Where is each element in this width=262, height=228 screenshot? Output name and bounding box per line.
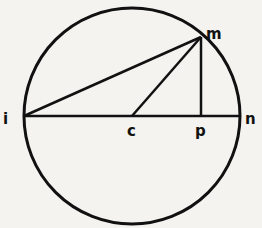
- label-c: c: [127, 122, 136, 140]
- label-i: i: [3, 110, 8, 128]
- label-p: p: [195, 122, 206, 140]
- circle-diagram: i m c p n: [0, 0, 262, 228]
- chord-i-m: [24, 37, 201, 116]
- radius-c-m: [132, 37, 201, 116]
- label-n: n: [245, 110, 256, 128]
- label-m: m: [206, 25, 222, 43]
